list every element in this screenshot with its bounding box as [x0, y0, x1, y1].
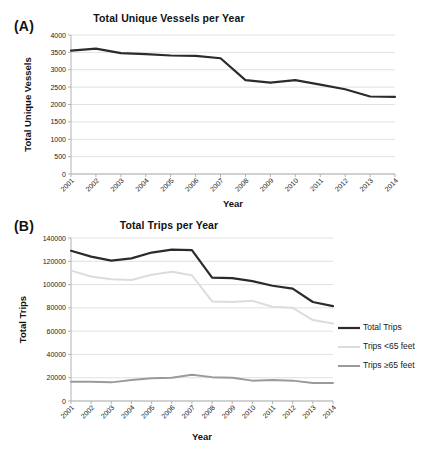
y-axis-tick-label: 80000 — [47, 304, 67, 311]
y-axis-tick-label: 3500 — [50, 49, 66, 56]
x-axis-tick-label: 2002 — [79, 404, 95, 420]
y-axis-tick-label: 0 — [62, 171, 66, 178]
x-axis-tick-label: 2012 — [333, 177, 349, 193]
x-axis-tick-label: 2006 — [184, 177, 200, 193]
x-axis-tick-label: 2002 — [84, 177, 100, 193]
x-axis-tick-label: 2014 — [383, 177, 399, 193]
y-axis-tick-label: 500 — [54, 153, 66, 160]
x-axis-tick-label: 2006 — [160, 404, 176, 420]
panel-a: (A) Total Unique Vessels per Year 050010… — [0, 0, 428, 215]
x-axis-title: Year — [223, 198, 243, 209]
x-axis-tick-label: 2003 — [109, 177, 125, 193]
y-axis-tick-label: 3000 — [50, 66, 66, 73]
x-axis-tick-label: 2008 — [200, 404, 216, 420]
y-axis-tick-label: 4000 — [50, 32, 66, 39]
x-axis-tick-label: 2012 — [281, 404, 297, 420]
y-axis-title: Total Unique Vessels — [22, 57, 33, 151]
x-axis-tick-label: 2010 — [241, 404, 257, 420]
y-axis-tick-label: 2500 — [50, 84, 66, 91]
series-line — [71, 271, 333, 324]
y-axis-title: Total Trips — [17, 296, 28, 343]
y-axis-tick-label: 40000 — [47, 351, 67, 358]
legend-label: Total Trips — [363, 322, 402, 332]
legend-label: Trips <65 feet — [363, 341, 416, 351]
x-axis-tick-label: 2005 — [159, 177, 175, 193]
x-axis-tick-label: 2009 — [220, 404, 236, 420]
series-line — [71, 49, 395, 97]
x-axis-tick-label: 2013 — [358, 177, 374, 193]
series-line — [71, 375, 333, 383]
series-line — [71, 250, 333, 306]
x-axis-tick-label: 2004 — [134, 177, 150, 193]
x-axis-tick-label: 2007 — [180, 404, 196, 420]
x-axis-tick-label: 2014 — [321, 404, 337, 420]
x-axis-tick-label: 2001 — [59, 177, 75, 193]
x-axis-tick-label: 2008 — [234, 177, 250, 193]
x-axis-tick-label: 2009 — [259, 177, 275, 193]
y-axis-tick-label: 140000 — [43, 235, 66, 242]
x-axis-tick-label: 2010 — [284, 177, 300, 193]
x-axis-tick-label: 2007 — [209, 177, 225, 193]
x-axis-tick-label: 2003 — [100, 404, 116, 420]
y-axis-tick-label: 1000 — [50, 136, 66, 143]
x-axis-tick-label: 2011 — [261, 404, 277, 420]
x-axis-tick-label: 2005 — [140, 404, 156, 420]
x-axis-tick-label: 2013 — [301, 404, 317, 420]
x-axis-title: Year — [192, 431, 212, 442]
chart-panel-a: 0500100015002000250030003500400020012002… — [0, 0, 428, 215]
y-axis-tick-label: 120000 — [43, 258, 66, 265]
chart-panel-b: 0200004000060000800001000001200001400002… — [0, 215, 428, 462]
y-axis-tick-label: 0 — [62, 398, 66, 405]
panel-b: (B) Total Trips per Year 020000400006000… — [0, 215, 428, 462]
legend-label: Trips ≥65 feet — [363, 360, 415, 370]
y-axis-tick-label: 100000 — [43, 281, 66, 288]
y-axis-tick-label: 20000 — [47, 374, 67, 381]
x-axis-tick-label: 2011 — [309, 177, 325, 193]
y-axis-tick-label: 2000 — [50, 101, 66, 108]
x-axis-tick-label: 2001 — [59, 404, 75, 420]
y-axis-tick-label: 60000 — [47, 328, 67, 335]
y-axis-tick-label: 1500 — [50, 118, 66, 125]
x-axis-tick-label: 2004 — [120, 404, 136, 420]
